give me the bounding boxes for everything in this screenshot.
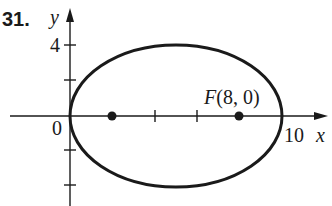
x-axis-label: x [315,124,325,146]
origin-label: 0 [52,117,62,139]
focus-coords: (8, 0) [216,86,259,109]
y-tick-label: 4 [50,34,60,56]
problem-number: 31. [2,8,30,30]
focus-label: F(8, 0) [203,86,260,109]
focus-point-left [108,112,117,121]
focus-letter: F [203,86,217,108]
focus-point-right [235,112,244,121]
y-axis-arrow-icon [66,8,74,22]
x-tick-label: 10 [284,124,304,146]
y-axis-label: y [48,6,59,29]
ellipse-figure: 31. y 4 0 10 x F(8, 0) [0,0,332,206]
x-axis-arrow-icon [314,112,328,120]
